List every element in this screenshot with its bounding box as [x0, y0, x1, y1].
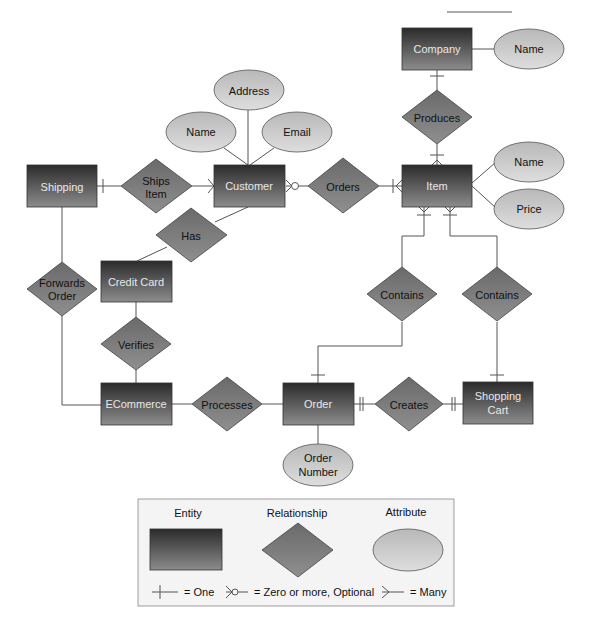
relationship-ships-item[interactable]: Ships Item [121, 159, 192, 213]
entity-label: Order [304, 398, 332, 410]
relationship-contains-cart[interactable]: Contains [462, 267, 532, 321]
attribute-company-name[interactable]: Name [494, 29, 564, 69]
relationship-label: Processes [201, 399, 253, 411]
legend-many-text: = Many [410, 586, 447, 598]
relationship-orders[interactable]: Orders [308, 158, 379, 213]
entity-shipping[interactable]: Shipping [27, 165, 97, 207]
entity-customer[interactable]: Customer [214, 165, 285, 207]
legend-zero-more-text: = Zero or more, Optional [254, 586, 374, 598]
relationship-label: Produces [414, 112, 461, 124]
relationship-label: Order [48, 290, 76, 302]
entity-ecommerce[interactable]: ECommerce [101, 383, 172, 425]
relationship-produces[interactable]: Produces [402, 90, 472, 144]
attribute-label: Number [298, 466, 337, 478]
legend-attribute-shape [373, 529, 443, 571]
legend: Entity Relationship Attribute = One = Ze… [138, 499, 454, 606]
attribute-label: Price [516, 203, 541, 215]
entity-order[interactable]: Order [283, 383, 354, 425]
legend-attribute-label: Attribute [386, 506, 427, 518]
relationship-label: Has [181, 230, 201, 242]
entity-label: Item [426, 180, 447, 192]
attribute-customer-address[interactable]: Address [214, 70, 284, 110]
entity-label: Shopping [475, 390, 522, 402]
relationship-processes[interactable]: Processes [192, 377, 262, 431]
entity-credit-card[interactable]: Credit Card [101, 261, 172, 302]
relationship-verifies[interactable]: Verifies [101, 317, 171, 370]
attribute-label: Name [514, 156, 543, 168]
attribute-customer-email[interactable]: Email [262, 112, 332, 152]
entity-label: Credit Card [108, 276, 164, 288]
relationship-contains-order[interactable]: Contains [367, 267, 437, 321]
legend-relationship-label: Relationship [267, 507, 328, 519]
legend-entity-shape [150, 529, 222, 570]
attribute-label: Address [229, 85, 270, 97]
entity-company[interactable]: Company [402, 28, 472, 70]
attribute-label: Email [283, 126, 311, 138]
relationship-label: Contains [380, 289, 424, 301]
attribute-customer-name[interactable]: Name [166, 112, 236, 152]
relationship-label: Item [145, 188, 166, 200]
relationship-has[interactable]: Has [156, 208, 227, 262]
legend-entity-label: Entity [174, 507, 202, 519]
attribute-label: Name [514, 43, 543, 55]
entity-shopping-cart[interactable]: Shopping Cart [463, 382, 533, 424]
relationship-label: Orders [326, 181, 360, 193]
legend-one-text: = One [184, 586, 214, 598]
attribute-item-price[interactable]: Price [494, 189, 564, 229]
entity-label: Customer [225, 180, 273, 192]
attribute-order-number[interactable]: Order Number [283, 444, 353, 486]
attribute-item-name[interactable]: Name [494, 142, 564, 182]
relationship-label: Ships [142, 175, 170, 187]
entity-label: Company [413, 43, 461, 55]
attribute-label: Name [186, 126, 215, 138]
relationship-label: Creates [390, 399, 429, 411]
relationship-forwards-order[interactable]: Forwards Order [27, 262, 97, 316]
relationship-label: Contains [475, 289, 519, 301]
entity-label: Shipping [41, 181, 84, 193]
relationship-label: Forwards [39, 277, 85, 289]
attribute-label: Order [304, 452, 332, 464]
relationship-label: Verifies [118, 339, 155, 351]
er-diagram: Company Shipping Customer Item Credit Ca… [0, 0, 595, 636]
relationship-creates[interactable]: Creates [375, 377, 443, 431]
entity-item[interactable]: Item [402, 165, 472, 207]
entity-label: ECommerce [105, 398, 166, 410]
entity-label: Cart [488, 404, 509, 416]
